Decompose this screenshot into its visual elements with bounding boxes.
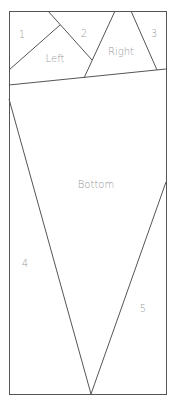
region-5-label: 5 xyxy=(140,303,146,314)
pattern-diagram: 1 Left 2 Right 3 Bottom 4 5 xyxy=(0,0,172,397)
region-bottom-label: Bottom xyxy=(78,179,114,190)
line-bottom-5 xyxy=(91,182,166,394)
region-4-label: 4 xyxy=(22,258,28,269)
region-right-label: Right xyxy=(108,46,134,57)
line-right-3 xyxy=(131,11,157,70)
region-3-label: 3 xyxy=(151,28,157,39)
region-left-label: Left xyxy=(46,53,65,64)
line-2-right xyxy=(84,11,115,78)
region-2-label: 2 xyxy=(81,28,87,39)
line-4-bottom xyxy=(9,99,91,394)
region-1-label: 1 xyxy=(19,29,25,40)
